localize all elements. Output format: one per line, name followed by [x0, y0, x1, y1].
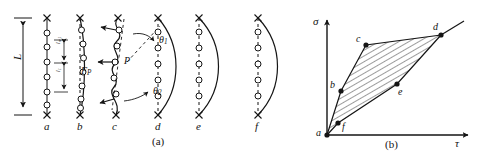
point-c	[363, 42, 368, 47]
chart-point-label-a: a	[316, 128, 321, 138]
caption-a: (a)	[152, 135, 164, 147]
extension-line	[441, 21, 464, 35]
segment-label-l-n-1: ln-1	[55, 37, 62, 44]
force-sub-P: P	[87, 69, 91, 77]
segment-dimension-ticks	[54, 40, 68, 92]
length-dimension-L	[14, 18, 32, 115]
segment-label-l-1: l1	[55, 68, 62, 72]
angle-label-theta1: θ1	[159, 35, 168, 46]
chart-point-label-b: b	[330, 80, 335, 90]
panel-b-drawing	[324, 20, 468, 138]
chain-config-e	[196, 15, 219, 119]
panel-letter-c: c	[112, 121, 117, 132]
force-label-Fp: FP	[81, 66, 92, 77]
angle-label-theta2: θ2	[153, 86, 162, 97]
panel-a-drawing	[0, 0, 481, 160]
chart-point-label-d: d	[433, 22, 438, 32]
panel-letter-a: a	[44, 121, 50, 132]
chain-config-f	[255, 15, 278, 119]
x-axis-label-tau: τ	[455, 138, 459, 149]
y-axis-label-sigma: σ	[313, 16, 318, 27]
point-a	[324, 132, 329, 137]
panel-letter-b: b	[77, 121, 83, 132]
theta1-sub: 1	[164, 38, 168, 46]
theta1-arc	[133, 33, 154, 41]
caption-b: (b)	[385, 138, 398, 150]
scientific-figure: L ln-1 l1 FP P θ1 θ2 a b c d e f (a) σ τ…	[0, 0, 481, 160]
theta2-sub: 2	[158, 89, 162, 97]
chain-config-d	[155, 15, 177, 119]
segment-sub-n-1: n-1	[57, 37, 62, 43]
chart-point-label-e: e	[398, 87, 402, 97]
length-label-L: L	[12, 54, 23, 60]
point-f	[335, 120, 340, 125]
panel-letter-f: f	[255, 121, 258, 132]
panel-letter-e: e	[196, 121, 201, 132]
point-d	[438, 32, 443, 37]
chart-point-label-c: c	[356, 34, 360, 44]
chain-config-a	[44, 15, 69, 119]
segment-sub-1: 1	[57, 68, 62, 70]
theta2-arc	[124, 92, 148, 101]
point-label-P: P	[124, 56, 130, 66]
point-b	[338, 88, 343, 93]
panel-letter-d: d	[155, 121, 161, 132]
chain-config-c	[98, 15, 160, 119]
chart-point-label-f: f	[342, 122, 345, 132]
